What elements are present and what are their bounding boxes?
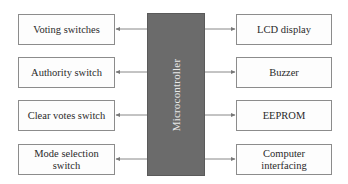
eeprom-box: EEPROM (236, 100, 332, 131)
microcontroller-label: Microcontroller (170, 58, 182, 131)
mode-selection-switch-box: Mode selection switch (18, 144, 115, 175)
eeprom-label: EEPROM (263, 110, 306, 122)
microcontroller-block: Microcontroller (147, 13, 205, 176)
buzzer-label: Buzzer (269, 67, 299, 79)
authority-switch-label: Authority switch (31, 67, 102, 79)
buzzer-box: Buzzer (236, 57, 332, 88)
authority-switch-box: Authority switch (18, 57, 115, 88)
clear-votes-switch-box: Clear votes switch (18, 100, 115, 131)
computer-interfacing-box: Computer interfacing (236, 144, 332, 175)
mode-selection-switch-label: Mode selection switch (33, 148, 100, 172)
computer-interfacing-label: Computer interfacing (255, 148, 313, 172)
lcd-display-label: LCD display (257, 24, 311, 36)
voting-switches-label: Voting switches (33, 24, 100, 36)
clear-votes-switch-label: Clear votes switch (28, 110, 106, 122)
lcd-display-box: LCD display (236, 14, 332, 45)
voting-switches-box: Voting switches (18, 14, 115, 45)
